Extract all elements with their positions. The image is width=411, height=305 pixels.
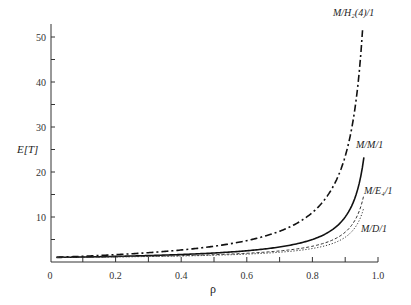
y-tick-label: 20 [36,167,46,178]
label-md1: M/D/1 [360,223,387,234]
curves [57,30,364,257]
x-tick-label: 1.0 [372,270,385,281]
label-me4-1: M/E₄/1 [363,185,392,196]
curve-m-d-1 [57,208,364,258]
x-tick-label: 0 [48,270,53,281]
curve-m-h2-4-1 [57,30,363,257]
y-tick-label: 40 [36,77,46,88]
x-tick-label: 0.8 [306,270,319,281]
axes [51,24,378,262]
label-mm1: M/M/1 [355,139,383,150]
chart-canvas: 00.20.40.60.81.01020304050 E[T] ρ M/H₂(4… [0,0,411,305]
y-axis-label: E[T] [16,143,38,155]
x-tick-label: 0.2 [109,270,122,281]
x-tick-label: 0.4 [175,270,188,281]
curve-m-e4-1 [57,195,364,257]
y-tick-label: 50 [36,32,46,43]
x-tick-label: 0.6 [241,270,254,281]
label-mh2-4-1: M/H₂(4)/1 [332,7,374,19]
y-tick-label: 30 [36,122,46,133]
x-axis-label: ρ [210,282,216,296]
y-tick-label: 10 [36,212,46,223]
